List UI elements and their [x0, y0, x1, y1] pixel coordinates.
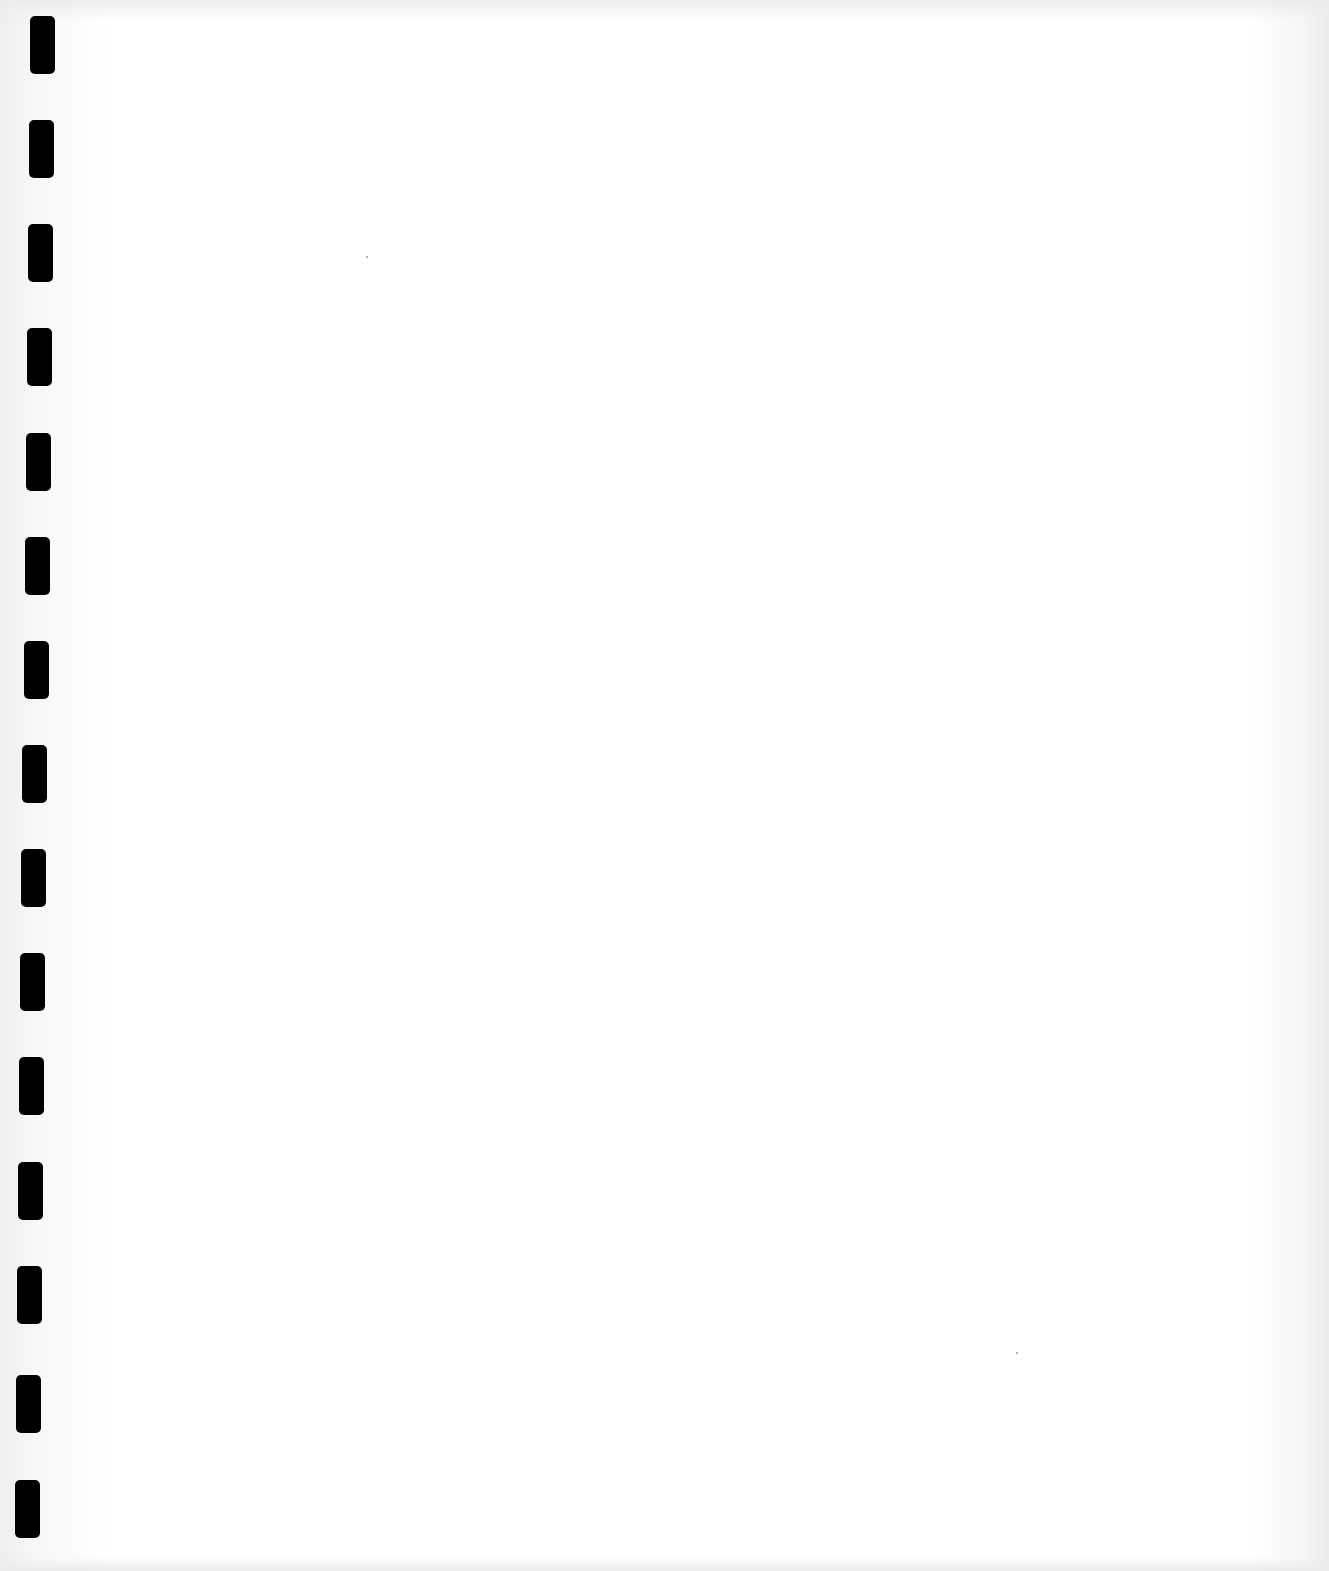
binding-hole	[29, 120, 54, 178]
binding-hole	[28, 224, 53, 282]
binding-hole	[15, 1480, 40, 1538]
scan-speck	[366, 256, 368, 258]
binding-hole	[17, 1266, 42, 1324]
scan-speck	[1016, 1352, 1018, 1354]
binding-hole	[30, 16, 55, 74]
binding-hole	[18, 1162, 43, 1220]
binding-hole	[16, 1375, 41, 1433]
binding-hole	[19, 1057, 44, 1115]
binding-hole	[27, 328, 52, 386]
binding-hole	[21, 849, 46, 907]
binding-hole	[26, 433, 51, 491]
binding-hole	[22, 745, 47, 803]
blank-page	[0, 0, 1329, 1571]
binding-hole	[20, 953, 45, 1011]
binding-hole	[25, 537, 50, 595]
binding-hole	[24, 641, 49, 699]
